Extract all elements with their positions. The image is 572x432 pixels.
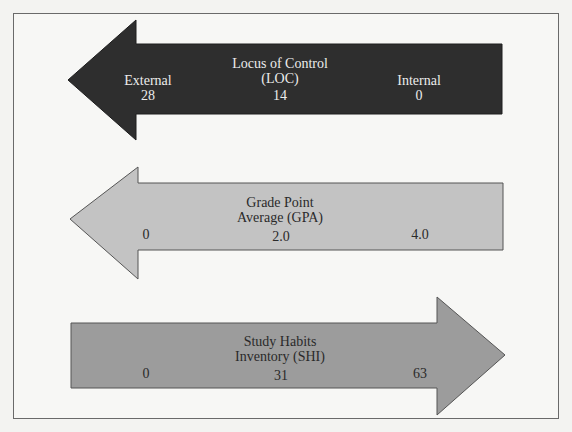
gpa-mid-value: 2.0 <box>272 229 290 244</box>
gpa-left-value: 0 <box>143 227 150 242</box>
loc-left-group: External 28 <box>124 73 171 103</box>
shi-title-line1: Study Habits <box>235 334 325 349</box>
loc-left-value: 28 <box>124 88 171 103</box>
gpa-title-line1: Grade Point <box>237 195 323 210</box>
shi-right-value: 63 <box>413 366 427 381</box>
gpa-title: Grade Point Average (GPA) <box>237 195 323 225</box>
loc-title-line2: (LOC) <box>232 71 328 86</box>
loc-right-value: 0 <box>397 88 441 103</box>
loc-title: Locus of Control (LOC) <box>232 56 328 86</box>
shi-title-line2: Inventory (SHI) <box>235 349 325 364</box>
gpa-title-line2: Average (GPA) <box>237 210 323 225</box>
loc-right-label: Internal <box>397 73 441 88</box>
loc-left-label: External <box>124 73 171 88</box>
shi-left-value: 0 <box>143 366 150 381</box>
loc-mid-value: 14 <box>273 88 287 103</box>
gpa-right-value: 4.0 <box>411 227 429 242</box>
loc-title-line1: Locus of Control <box>232 56 328 71</box>
shi-mid-value: 31 <box>274 368 288 383</box>
shi-title: Study Habits Inventory (SHI) <box>235 334 325 364</box>
loc-right-group: Internal 0 <box>397 73 441 103</box>
